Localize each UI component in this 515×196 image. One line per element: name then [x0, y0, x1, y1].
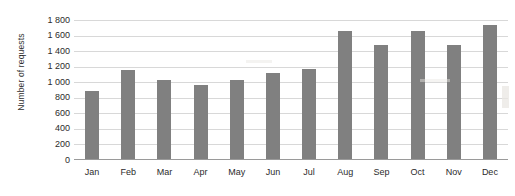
bar	[85, 91, 99, 159]
bar	[157, 80, 171, 159]
x-axis-line	[74, 159, 508, 160]
y-axis-tick-label: 400	[26, 124, 70, 133]
bar	[302, 69, 316, 159]
x-axis-tick-labels: JanFebMarAprMayJunJulAugSepOctNovDec	[74, 166, 508, 180]
bar	[411, 31, 425, 159]
y-axis-tick-label: 1 600	[26, 31, 70, 40]
bar	[338, 31, 352, 159]
bar	[483, 25, 497, 159]
y-axis-tick-label: 1 800	[26, 16, 70, 25]
y-axis-tick-label: 800	[26, 93, 70, 102]
y-axis-tick-labels: 02004006008001 0001 2001 4001 6001 800	[26, 0, 70, 196]
y-axis-tick-label: 1 400	[26, 47, 70, 56]
bar-chart: Number of requests 02004006008001 0001 2…	[0, 0, 515, 196]
bar	[374, 45, 388, 159]
bar	[230, 80, 244, 159]
y-axis-tick-label: 1 200	[26, 62, 70, 71]
y-axis-tick-label: 1 000	[26, 78, 70, 87]
y-axis-tick-label: 200	[26, 140, 70, 149]
bar	[266, 73, 280, 159]
x-axis-tick-label: Dec	[468, 166, 512, 178]
bar	[447, 45, 461, 159]
bar	[121, 70, 135, 159]
plot-area	[74, 20, 508, 160]
y-axis-tick-label: 0	[26, 156, 70, 165]
y-axis-tick-label: 600	[26, 109, 70, 118]
bars-group	[74, 20, 508, 160]
bar	[194, 85, 208, 159]
